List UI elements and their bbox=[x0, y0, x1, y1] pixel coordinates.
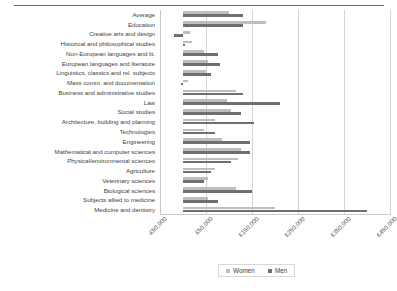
bar-group bbox=[160, 69, 390, 79]
gridline bbox=[390, 10, 391, 215]
bar-men[interactable] bbox=[183, 73, 211, 76]
legend-label-men: Men bbox=[275, 267, 287, 274]
bar-group bbox=[160, 176, 390, 186]
bar-men[interactable] bbox=[183, 93, 243, 96]
category-label: Social studies bbox=[0, 108, 160, 118]
bar-group bbox=[160, 49, 390, 59]
bar-men[interactable] bbox=[183, 112, 241, 115]
bar-men[interactable] bbox=[183, 53, 218, 56]
bar-rows bbox=[160, 10, 390, 215]
bar-women[interactable] bbox=[183, 31, 190, 34]
bar-men[interactable] bbox=[183, 210, 367, 213]
x-axis-tick-labels: -£50,000£50,000£150,000£250,000£350,000£… bbox=[160, 215, 390, 255]
bar-men[interactable] bbox=[183, 63, 220, 66]
chart-legend: Women Men bbox=[218, 264, 295, 277]
category-label: Non-European languages and lit. bbox=[0, 49, 160, 59]
x-tick-label: £150,000 bbox=[237, 215, 260, 238]
bar-men[interactable] bbox=[183, 14, 243, 17]
bar-group bbox=[160, 196, 390, 206]
legend-item-men[interactable]: Men bbox=[268, 267, 287, 274]
bar-men[interactable] bbox=[183, 122, 254, 125]
bar-men[interactable] bbox=[183, 102, 280, 105]
legend-swatch-women-icon bbox=[226, 269, 230, 273]
bars-plot bbox=[160, 10, 390, 215]
category-label: Linguistics, classics and rel. subjects bbox=[0, 69, 160, 79]
bar-men[interactable] bbox=[183, 24, 243, 27]
category-label: Subjects allied to medicine bbox=[0, 196, 160, 206]
category-label: Average bbox=[0, 10, 160, 20]
bar-group bbox=[160, 147, 390, 157]
bar-group bbox=[160, 156, 390, 166]
chart-figure: AverageEducationCreative arts and design… bbox=[0, 0, 397, 291]
bar-group bbox=[160, 88, 390, 98]
bar-group bbox=[160, 108, 390, 118]
legend-item-women[interactable]: Women bbox=[226, 267, 255, 274]
bar-group bbox=[160, 186, 390, 196]
bar-group bbox=[160, 117, 390, 127]
category-label: Agriculture bbox=[0, 166, 160, 176]
bar-group bbox=[160, 166, 390, 176]
category-axis-labels: AverageEducationCreative arts and design… bbox=[0, 10, 160, 215]
bar-group bbox=[160, 78, 390, 88]
category-label: Mass comm. and documentation bbox=[0, 78, 160, 88]
bar-group bbox=[160, 20, 390, 30]
bar-men[interactable] bbox=[183, 151, 250, 154]
bar-group bbox=[160, 127, 390, 137]
x-tick-label: £350,000 bbox=[329, 215, 352, 238]
chart-plot-area: AverageEducationCreative arts and design… bbox=[0, 10, 397, 225]
x-tick-label: £50,000 bbox=[193, 215, 214, 236]
bar-men[interactable] bbox=[183, 171, 211, 174]
bar-men[interactable] bbox=[183, 180, 204, 183]
bar-men[interactable] bbox=[181, 83, 183, 86]
x-tick-label: £250,000 bbox=[283, 215, 306, 238]
category-label: Architecture, building and planning bbox=[0, 117, 160, 127]
bar-men[interactable] bbox=[183, 132, 215, 135]
category-label: Education bbox=[0, 20, 160, 30]
bar-group bbox=[160, 98, 390, 108]
category-label: Biological sciences bbox=[0, 186, 160, 196]
bar-men[interactable] bbox=[183, 190, 252, 193]
bar-group bbox=[160, 137, 390, 147]
bar-group bbox=[160, 30, 390, 40]
category-label: Medicine and dentistry bbox=[0, 205, 160, 215]
bar-group bbox=[160, 10, 390, 20]
bar-group bbox=[160, 59, 390, 69]
x-tick-label: £450,000 bbox=[375, 215, 397, 238]
category-label: Historical and philosophical studies bbox=[0, 39, 160, 49]
category-label: Engineering bbox=[0, 137, 160, 147]
bar-men[interactable] bbox=[183, 141, 250, 144]
category-label: Creative arts and design bbox=[0, 30, 160, 40]
category-label: European languages and literature bbox=[0, 59, 160, 69]
bar-men[interactable] bbox=[183, 161, 231, 164]
bar-women[interactable] bbox=[183, 80, 188, 83]
header-divider bbox=[14, 5, 384, 6]
category-label: Veterinary sciences bbox=[0, 176, 160, 186]
category-label: Physical/environmental sciences bbox=[0, 156, 160, 166]
category-label: Business and administrative studies bbox=[0, 88, 160, 98]
bar-group bbox=[160, 205, 390, 215]
bar-group bbox=[160, 39, 390, 49]
legend-swatch-men-icon bbox=[268, 269, 272, 273]
bar-men[interactable] bbox=[174, 34, 183, 37]
category-label: Law bbox=[0, 98, 160, 108]
bar-men[interactable] bbox=[183, 200, 218, 203]
bar-men[interactable] bbox=[183, 44, 185, 47]
category-label: Mathematical and computer sciences bbox=[0, 147, 160, 157]
category-label: Technologies bbox=[0, 127, 160, 137]
legend-label-women: Women bbox=[233, 267, 255, 274]
